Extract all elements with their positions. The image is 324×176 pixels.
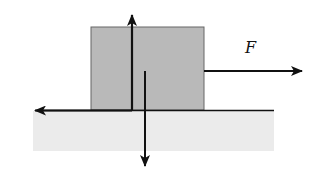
free-body-diagram: F — [0, 0, 324, 176]
applied-force-label: F — [245, 40, 256, 56]
block — [91, 27, 204, 110]
ground-surface — [33, 111, 274, 151]
diagram-canvas — [0, 0, 324, 176]
